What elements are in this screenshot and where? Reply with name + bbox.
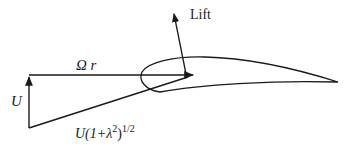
velocity-diagram — [0, 0, 349, 150]
lift-label: Lift — [190, 8, 211, 22]
resultant-prefix: U(1+λ — [75, 126, 112, 141]
r-variable: r — [91, 57, 97, 73]
lift-text: Lift — [190, 7, 211, 22]
lift-arrow — [174, 14, 186, 74]
u-label: U — [11, 94, 22, 109]
omega-r-label: Ω r — [76, 58, 96, 73]
u-text: U — [11, 93, 22, 109]
omega-symbol: Ω — [76, 57, 87, 73]
resultant-velocity-line — [29, 77, 188, 128]
resultant-velocity-label: U(1+λ2)1/2 — [75, 127, 135, 141]
resultant-exp2: 1/2 — [122, 123, 135, 134]
